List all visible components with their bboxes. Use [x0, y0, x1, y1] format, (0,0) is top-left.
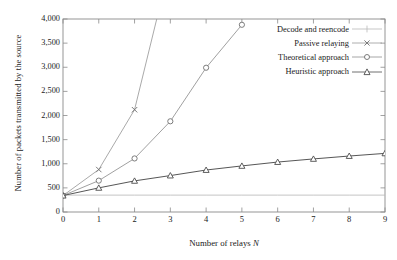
- legend-item-passive-relaying: Passive relaying: [244, 36, 382, 50]
- chart-figure: Number of packets transmitted by the sou…: [0, 0, 397, 260]
- legend-item-decode-and-reencode: Decode and reencode: [244, 22, 382, 36]
- chart-legend: Decode and reencode Passive relaying The…: [244, 22, 382, 79]
- legend-item-theoretical-approach: Theoretical approach: [244, 50, 382, 64]
- legend-key-triangle-icon: [352, 66, 382, 78]
- legend-label: Heuristic approach: [286, 67, 352, 76]
- legend-item-heuristic-approach: Heuristic approach: [244, 65, 382, 79]
- legend-label: Passive relaying: [294, 39, 352, 48]
- legend-label: Theoretical approach: [278, 53, 352, 62]
- legend-label: Decode and reencode: [277, 25, 352, 34]
- legend-key-cross-icon: [352, 37, 382, 49]
- legend-key-plus-icon: [352, 23, 382, 35]
- legend-key-circle-icon: [352, 51, 382, 63]
